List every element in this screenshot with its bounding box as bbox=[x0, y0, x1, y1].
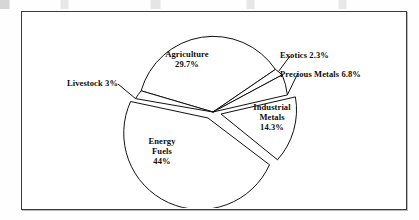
label-precious-metals: Precious Metals 6.8% bbox=[280, 69, 361, 79]
pie-chart bbox=[22, 12, 406, 208]
label-exotics: Exotics 2.3% bbox=[280, 50, 329, 60]
label-energy-fuels-line1: Energy bbox=[112, 136, 212, 146]
label-industrial-metals-value: 14.3% bbox=[234, 122, 310, 132]
figure-page: Agriculture 29.7% Energy Fuels 44% Indus… bbox=[0, 0, 419, 220]
label-energy-fuels-value: 44% bbox=[112, 156, 212, 166]
label-energy-fuels-line2: Fuels bbox=[112, 146, 212, 156]
label-industrial-metals: Industrial Metals 14.3% bbox=[234, 102, 310, 132]
label-industrial-metals-line1: Industrial bbox=[234, 102, 310, 112]
label-agriculture: Agriculture 29.7% bbox=[132, 49, 242, 69]
label-agriculture-value: 29.7% bbox=[132, 59, 242, 69]
label-agriculture-name: Agriculture bbox=[132, 49, 242, 59]
scan-artifact-band bbox=[0, 0, 419, 9]
figure-frame: Agriculture 29.7% Energy Fuels 44% Indus… bbox=[21, 11, 407, 210]
label-energy-fuels: Energy Fuels 44% bbox=[112, 136, 212, 166]
label-industrial-metals-line2: Metals bbox=[234, 112, 310, 122]
leader-line-livestock bbox=[118, 84, 136, 99]
label-livestock: Livestock 3% bbox=[28, 78, 118, 88]
